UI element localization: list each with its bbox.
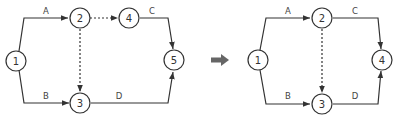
edge-label-b: B (285, 91, 291, 101)
edge-a (260, 18, 310, 50)
edge-label-a: A (285, 6, 291, 16)
node-1: 1 (6, 51, 26, 71)
edge-c (140, 18, 173, 49)
right-diagram: A B C D 1 2 3 4 (248, 6, 392, 114)
edge-label-b: B (43, 91, 49, 101)
node-2: 2 (70, 8, 90, 28)
svg-text:3: 3 (319, 99, 325, 110)
edge-label-a: A (43, 6, 49, 16)
svg-text:4: 4 (126, 13, 132, 24)
svg-text:3: 3 (77, 98, 83, 109)
network-diagram-figure: A B C D 1 2 3 4 5 A B C D 1 2 3 4 (0, 0, 400, 118)
edge-c (333, 18, 381, 49)
edge-label-c: C (149, 6, 155, 16)
edge-label-d: D (352, 91, 359, 101)
edge-d (91, 72, 173, 103)
edge-a (19, 18, 68, 51)
node-4: 4 (372, 50, 392, 70)
left-diagram: A B C D 1 2 3 4 5 (6, 6, 184, 113)
svg-text:4: 4 (379, 55, 385, 66)
node-2: 2 (312, 8, 332, 28)
node-3: 3 (312, 94, 332, 114)
svg-text:1: 1 (255, 55, 261, 66)
edge-label-c: C (352, 6, 358, 16)
svg-text:1: 1 (13, 56, 19, 67)
node-4: 4 (119, 8, 139, 28)
node-1: 1 (248, 50, 268, 70)
edge-label-d: D (116, 91, 123, 101)
node-3: 3 (70, 93, 90, 113)
svg-text:2: 2 (319, 13, 325, 24)
right-arrow-icon (211, 54, 229, 66)
node-5: 5 (164, 50, 184, 70)
svg-text:2: 2 (77, 13, 83, 24)
svg-text:5: 5 (171, 55, 177, 66)
